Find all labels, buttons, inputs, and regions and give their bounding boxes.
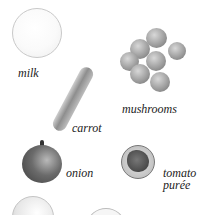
milk-label: milk	[18, 67, 39, 79]
milk-bowl-image	[12, 8, 62, 58]
mushroom	[150, 72, 170, 92]
tomato-puree-image	[127, 150, 149, 172]
mushroom	[130, 64, 150, 84]
mushrooms-image	[120, 28, 200, 98]
bowl-image	[88, 208, 124, 215]
mushroom	[146, 51, 166, 71]
bowl-image	[12, 196, 54, 215]
mushroom	[168, 42, 186, 60]
mushrooms-label: mushrooms	[122, 103, 177, 115]
onion-image	[22, 145, 62, 183]
carrot-label: carrot	[72, 122, 102, 134]
onion-label: onion	[66, 167, 93, 179]
tomato-puree-label-line2: purée	[163, 179, 190, 191]
